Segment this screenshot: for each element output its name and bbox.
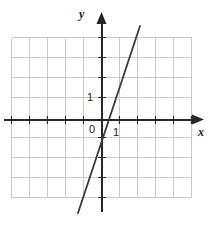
origin-tick-label: 0 xyxy=(89,124,95,135)
x-axis-label: x xyxy=(198,126,204,138)
x-axis-one-tick-label: 1 xyxy=(113,127,119,138)
graph-canvas xyxy=(0,0,213,227)
y-axis-label: y xyxy=(79,8,84,20)
y-axis xyxy=(97,12,107,212)
x-axis-arrow xyxy=(192,115,204,125)
y-axis-arrow xyxy=(97,12,107,24)
coordinate-plane-figure: y x 0 1 1 xyxy=(0,0,213,227)
y-axis-one-tick-label: 1 xyxy=(87,92,93,103)
